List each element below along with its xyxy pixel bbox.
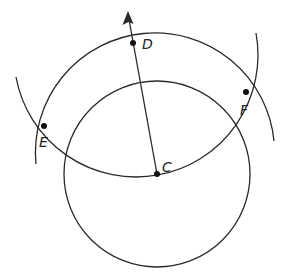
arc-centered-c [35, 33, 274, 164]
geometry-diagram: D C E F [0, 0, 285, 278]
diagram-canvas: D C E F [0, 0, 285, 278]
label-c: C [162, 159, 172, 175]
point-d [130, 40, 136, 46]
point-e [41, 123, 47, 129]
point-f [243, 89, 249, 95]
arc-centered-d [16, 33, 258, 177]
label-f: F [240, 102, 249, 118]
point-c [154, 171, 160, 177]
label-e: E [39, 134, 48, 150]
arrowhead-icon [123, 11, 134, 25]
label-d: D [142, 36, 153, 52]
